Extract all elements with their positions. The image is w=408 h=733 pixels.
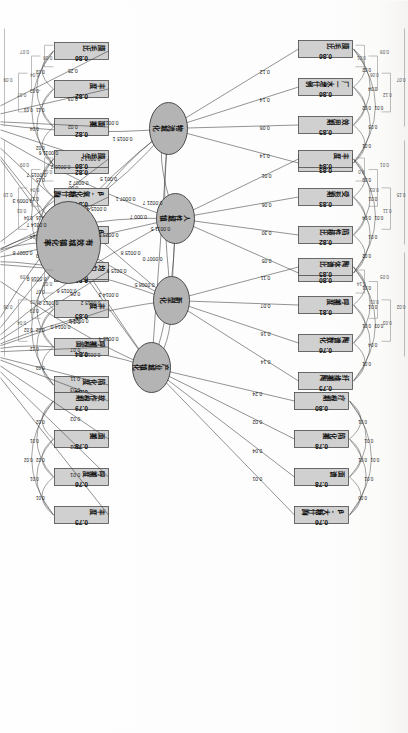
- indicator-name: 丰度: [333, 152, 349, 159]
- dendro-bottom-right-root-value: 0.06: [2, 303, 11, 308]
- arc-value: 0.02: [35, 327, 44, 332]
- indicator-loading: 0.86: [74, 55, 87, 62]
- loading-path: [171, 300, 298, 343]
- indicator-loading: 0.86: [318, 53, 331, 60]
- path-coefficient: 0.0007 1: [115, 195, 135, 201]
- dendro-top-left-value: 0.01: [356, 55, 365, 60]
- path-coefficient: 0.0008 5: [134, 281, 154, 287]
- indicator-loading: 0.80: [314, 405, 327, 412]
- loading-value: 0.01: [261, 173, 271, 179]
- loading-path: [171, 300, 298, 305]
- path-coefficient: 0.0015 9: [106, 267, 126, 273]
- path-coefficient: 0.0015 2: [80, 299, 100, 305]
- indicator-loading: 0.78: [314, 443, 327, 450]
- indicator-loading: 0.86: [74, 163, 87, 170]
- loading-value: 0.02: [67, 124, 77, 130]
- indicator-name: 效用期: [326, 118, 349, 125]
- path-coefficient: 0.0015 4: [86, 205, 106, 211]
- indicator-loading: 0.76: [74, 481, 87, 488]
- loading-value: 0.02: [252, 419, 262, 425]
- loading-value: 0.07: [260, 302, 270, 308]
- indicator-loading: 0.78: [314, 481, 327, 488]
- dendro-bottom-mid-root-value: 0.10: [2, 191, 11, 196]
- path-coefficient: 0.0021 7: [142, 199, 162, 205]
- dendro-top-left-extra: 0.08: [379, 48, 388, 53]
- indicator-loading: 0.82: [318, 239, 331, 246]
- arc-value: 0.01: [363, 438, 372, 443]
- indicator-loading: 0.79: [74, 405, 87, 412]
- loading-value: 0.03: [67, 96, 77, 102]
- path-coefficient: 0.000 7: [129, 213, 146, 219]
- indicator-name: 陷化度: [82, 378, 105, 385]
- arc-value: 0.02: [35, 419, 44, 424]
- indicator-loading: 0.76: [318, 347, 331, 354]
- indicator-loading: 0.83: [318, 201, 331, 208]
- dendro-top-left-value: 0.12: [382, 91, 391, 96]
- indicator-loading: 0.81: [318, 309, 331, 316]
- loading-value: 0.12: [259, 68, 269, 74]
- arc-value: 0.01: [357, 457, 366, 462]
- arc-value: 0.01: [369, 457, 378, 462]
- arc-value: 0.01: [367, 196, 376, 201]
- path-coefficient: 0.0013 2: [80, 155, 100, 161]
- path-coefficient: 0.0014 7: [26, 221, 46, 227]
- loading-path: [151, 367, 294, 477]
- indicator-name: 陷性棱比: [318, 228, 349, 235]
- dendro-top-right-value: 0.03: [382, 319, 391, 324]
- latent-label: 有效城镇化率: [42, 238, 93, 247]
- sem-path-diagram: 0.020.040.010.020.050.01膜毛比0.860.12厂一水增什…: [0, 0, 408, 733]
- dendro-bottom-left-value: 0.08: [42, 55, 51, 60]
- loading-value: 0.14: [260, 359, 270, 365]
- correlation-arc: [349, 439, 366, 515]
- path-coefficient: 0.0011 6: [38, 149, 58, 155]
- path-coefficient: 0.0007 0: [142, 255, 162, 261]
- path-coefficient: 0.0014 0: [50, 323, 70, 329]
- indicator-loading: 0.84: [318, 163, 331, 170]
- figure-canvas: 0.020.040.010.020.050.01膜毛比0.860.12厂一水增什…: [0, 0, 408, 733]
- loading-value: 0.14: [259, 153, 269, 159]
- arc-value: 0.11: [35, 107, 44, 112]
- dendro-top-mid-value: 0.03: [369, 186, 378, 191]
- arc-value: 0.01: [29, 476, 38, 481]
- path-coefficient: 0.0015 8: [120, 249, 140, 255]
- loading-value: 0.01: [70, 471, 80, 477]
- indicator-name: 膜毛比: [326, 41, 349, 49]
- indicator-name: 受形期: [326, 190, 349, 197]
- loading-path: [171, 300, 298, 381]
- path-coefficient: 0.0007 8: [12, 249, 32, 255]
- dendro-bottom-left-value: 0.04: [29, 72, 38, 77]
- indicator-name: 呼搬度: [326, 298, 349, 305]
- arc-value: 0.02: [361, 253, 370, 258]
- path-coefficient: 0.0013 0: [98, 119, 118, 125]
- path-coefficient: 0.0012 0: [38, 299, 58, 305]
- indicator-name: 丰度: [89, 82, 105, 89]
- arc-value: 0.01: [367, 234, 376, 239]
- arc-value: 0.01: [363, 476, 372, 481]
- path-coefficient: 0.0021 2: [68, 317, 88, 323]
- loading-path: [0, 352, 108, 477]
- indicator-loading: 0.85: [318, 271, 331, 278]
- dendro-top-right-extra: 0.05: [379, 274, 388, 279]
- indicator-name: 陶体谱比: [318, 260, 349, 267]
- loading-value: 0.24: [252, 391, 262, 397]
- indicator-name: 厂一水增什例: [304, 80, 348, 87]
- latent-label: 人性城镇: [159, 215, 190, 222]
- loading-value: 0.02: [70, 415, 80, 421]
- arc-value: 0.04: [367, 86, 376, 91]
- path-coefficient: 0.0015 4: [98, 335, 118, 341]
- path-coefficient: 0.0015 7: [26, 171, 46, 177]
- loading-value: 0.25: [67, 68, 77, 74]
- correlation-arc: [353, 87, 370, 163]
- indicator-loading: 0.75: [318, 385, 331, 392]
- arc-value: 0.01: [373, 105, 382, 110]
- arc-value: 0.07: [35, 289, 44, 294]
- arc-value: 0.01: [373, 215, 382, 220]
- path-coefficient: 0.0015 6: [56, 287, 76, 293]
- dendro-bottom-right-value: 0.02: [42, 280, 51, 285]
- dendro-bottom-right-value: 0.04: [16, 319, 25, 324]
- loading-path: [168, 87, 298, 129]
- dendro-top-left-value: 0.06: [369, 72, 378, 77]
- loading-path: [151, 367, 294, 515]
- loading-value: 0.11: [70, 375, 80, 381]
- dendro-top-left-root-value: 0.07: [396, 76, 405, 81]
